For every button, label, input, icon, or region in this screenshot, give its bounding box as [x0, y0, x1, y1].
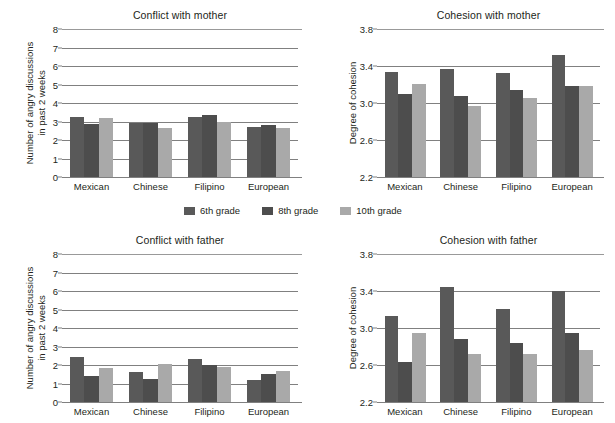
legend-item-g8: 8th grade: [262, 205, 318, 216]
y-tick-mark: [373, 291, 377, 292]
y-tick-mark: [373, 328, 377, 329]
bar-cohesion-father-filipino-g10: [523, 354, 537, 402]
chart-title-cohesion-father: Cohesion with father: [377, 234, 600, 246]
bar-cohesion-father-european-g10: [579, 350, 593, 402]
bar-cohesion-father-chinese-g10: [468, 354, 482, 402]
x-tick-label: Filipino: [501, 406, 531, 417]
figure-panel-grid: Conflict with motherNumber of angry disc…: [0, 0, 615, 423]
plot-area-cohesion-father: 2.22.63.03.43.8MexicanChineseFilipinoEur…: [377, 254, 600, 402]
bar-cohesion-father-filipino-g6: [496, 309, 510, 402]
bar-cohesion-father-european-g6: [552, 291, 566, 402]
bar-cohesion-father-mexican-g8: [398, 362, 412, 402]
x-tick-label: European: [552, 406, 593, 417]
x-tick-label: Chinese: [443, 406, 478, 417]
gridline: [377, 291, 600, 292]
bar-cohesion-father-filipino-g8: [510, 343, 524, 402]
chart-legend: 6th grade8th grade10th grade: [184, 205, 402, 216]
y-axis-label-line: Degree of cohesion: [347, 250, 358, 406]
x-tick-label: Mexican: [387, 406, 422, 417]
bar-cohesion-father-mexican-g6: [385, 316, 399, 402]
y-axis-label-cohesion-father: Degree of cohesion: [347, 250, 358, 406]
legend-label: 6th grade: [200, 205, 240, 216]
legend-swatch-icon-g8: [262, 207, 273, 215]
bar-cohesion-father-european-g8: [565, 333, 579, 402]
y-tick-mark: [373, 254, 377, 255]
legend-label: 10th grade: [356, 205, 401, 216]
legend-swatch-icon-g10: [340, 207, 351, 215]
bar-cohesion-father-mexican-g10: [412, 333, 426, 402]
y-tick-mark: [373, 365, 377, 366]
legend-swatch-icon-g6: [184, 207, 195, 215]
legend-label: 8th grade: [278, 205, 318, 216]
bar-cohesion-father-chinese-g8: [454, 339, 468, 402]
gridline: [377, 328, 600, 329]
bar-cohesion-father-chinese-g6: [440, 287, 454, 402]
legend-item-g6: 6th grade: [184, 205, 240, 216]
gridline: [377, 254, 604, 255]
legend-item-g10: 10th grade: [340, 205, 401, 216]
x-axis-line: [377, 402, 604, 403]
